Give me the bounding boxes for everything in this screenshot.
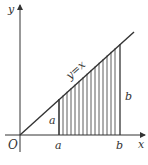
origin-label: O (8, 138, 18, 152)
height-label-b: b (125, 90, 132, 103)
x-tick-a: a (55, 139, 62, 152)
x-tick-b: b (116, 139, 123, 152)
y-axis-label: y (7, 3, 15, 16)
height-label-a: a (49, 114, 56, 127)
diagram-canvas: y x O y=x a b a b (0, 0, 148, 165)
line-equation-label: y=x (63, 58, 89, 83)
x-axis-label: x (138, 138, 145, 151)
line-y-equals-x (20, 32, 134, 135)
